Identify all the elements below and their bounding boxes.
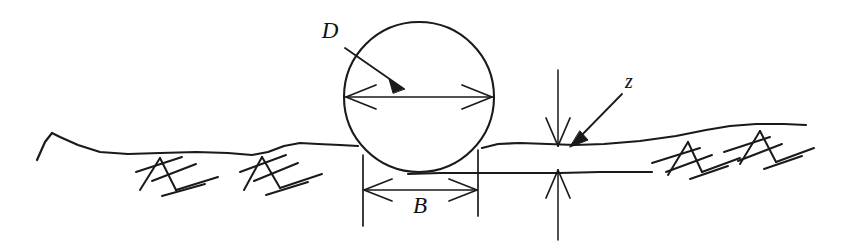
diameter-label: D xyxy=(321,18,339,43)
depth-dimension-upper xyxy=(546,70,570,146)
ground-surface-left xyxy=(37,133,358,160)
hatch-group-left-2 xyxy=(240,155,322,195)
width-label: B xyxy=(413,193,427,218)
hatch-group-left-1 xyxy=(136,157,218,196)
trench-bottom-line xyxy=(408,172,652,174)
hatch-group-right-2 xyxy=(724,131,814,169)
depth-label: z xyxy=(624,70,633,92)
diagram-canvas: D B xyxy=(0,0,841,246)
depth-dimension-lower xyxy=(546,170,570,240)
buried-pipe-diagram: D B xyxy=(0,0,841,246)
diameter-dimension xyxy=(346,85,492,109)
hatch-group-right-1 xyxy=(652,142,740,179)
depth-leader-arrow xyxy=(570,94,622,147)
